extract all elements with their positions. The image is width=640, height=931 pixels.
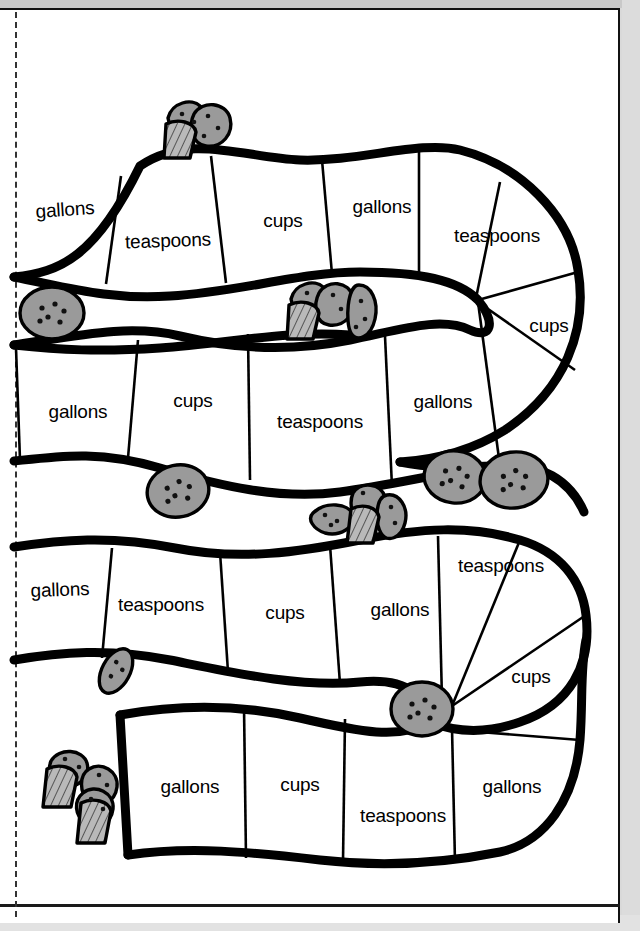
maze-cell-cups[interactable]: cups [265, 602, 304, 624]
maze-cell-cups[interactable]: cups [280, 774, 319, 796]
cookie-left-row1-icon [20, 287, 84, 339]
maze-cell-gallons[interactable]: gallons [414, 391, 473, 413]
maze-cell-cups[interactable]: cups [529, 315, 568, 337]
maze-cell-teaspoons[interactable]: teaspoons [360, 805, 446, 827]
maze-cell-cups[interactable]: cups [511, 666, 550, 688]
cookie-row2-far-right-b-icon [476, 448, 551, 513]
maze-cell-teaspoons[interactable]: teaspoons [454, 225, 540, 247]
maze-cell-teaspoons[interactable]: teaspoons [458, 555, 544, 577]
maze-cell-gallons[interactable]: gallons [161, 776, 220, 798]
maze-cell-teaspoons[interactable]: teaspoons [118, 594, 204, 616]
maze-cell-cups[interactable]: cups [173, 390, 212, 412]
maze-cell-teaspoons[interactable]: teaspoons [125, 229, 212, 254]
maze-cell-gallons[interactable]: gallons [371, 599, 430, 621]
maze-cell-gallons[interactable]: gallons [483, 776, 542, 798]
maze-cell-gallons[interactable]: gallons [35, 197, 95, 223]
path-maze-illustration [0, 0, 640, 931]
maze-cell-teaspoons[interactable]: teaspoons [277, 411, 363, 433]
muffin-cluster-bottom-left-icon [43, 751, 117, 843]
cookie-row3-right-icon [391, 682, 453, 736]
maze-cell-gallons[interactable]: gallons [49, 401, 108, 423]
maze-cell-gallons[interactable]: gallons [353, 196, 412, 218]
maze-cell-gallons[interactable]: gallons [30, 578, 90, 602]
maze-cell-cups[interactable]: cups [263, 210, 302, 232]
